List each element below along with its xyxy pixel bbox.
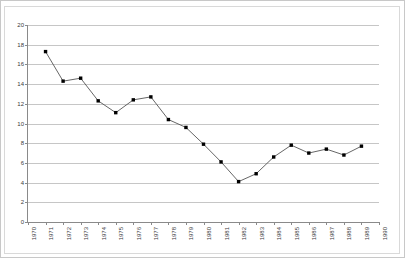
data-point-marker: 1981: 6.1 (219, 160, 222, 163)
x-tick-label: 1984 (276, 227, 282, 240)
x-tick-mark (81, 222, 82, 225)
y-tick-label: 6 (21, 160, 24, 166)
x-tick-mark (116, 222, 117, 225)
x-tick-mark (98, 222, 99, 225)
y-tick-label: 8 (21, 140, 24, 146)
x-tick-label: 1987 (329, 227, 335, 240)
y-tick-label: 20 (17, 22, 24, 28)
x-tick-mark (344, 222, 345, 225)
y-tick-label: 0 (21, 219, 24, 225)
x-tick-mark (168, 222, 169, 225)
x-tick-label: 1973 (83, 227, 89, 240)
data-point-marker: 1982: 4.1 (237, 180, 240, 183)
data-point-marker: 1987: 7.4 (325, 147, 328, 150)
x-tick-label: 1979 (188, 227, 194, 240)
data-point-marker: 1974: 12.3 (97, 99, 100, 102)
y-tick-label: 12 (17, 101, 24, 107)
data-point-marker: 1988: 6.8 (342, 153, 345, 156)
data-point-marker: 1980: 7.9 (202, 142, 205, 145)
x-tick-mark (221, 222, 222, 225)
data-point-marker: 1986: 7 (307, 151, 310, 154)
series-line (46, 52, 362, 182)
data-point-marker: 1985: 7.8 (290, 143, 293, 146)
data-point-marker: 1984: 6.6 (272, 155, 275, 158)
x-tick-mark (151, 222, 152, 225)
x-tick-label: 1974 (101, 227, 107, 240)
data-series-layer: 1971: 17.31972: 14.31973: 14.61974: 12.3… (28, 25, 379, 222)
x-tick-label: 1983 (259, 227, 265, 240)
data-point-marker: 1975: 11.1 (114, 111, 117, 114)
x-tick-label: 1971 (48, 227, 54, 240)
x-tick-mark (204, 222, 205, 225)
x-tick-label: 1976 (136, 227, 142, 240)
plot-area: 02468101214161820 1970197119721973197419… (27, 25, 379, 223)
x-tick-label: 1975 (118, 227, 124, 240)
data-point-marker: 1989: 7.7 (360, 144, 363, 147)
x-tick-mark (46, 222, 47, 225)
x-tick-mark (379, 222, 380, 225)
x-tick-mark (361, 222, 362, 225)
x-tick-mark (309, 222, 310, 225)
y-tick-label: 18 (17, 42, 24, 48)
x-tick-label: 1988 (346, 227, 352, 240)
x-tick-label: 1978 (171, 227, 177, 240)
x-tick-label: 1989 (364, 227, 370, 240)
x-tick-label: 1972 (66, 227, 72, 240)
x-tick-label: 1980 (206, 227, 212, 240)
x-tick-mark (274, 222, 275, 225)
data-point-marker: 1976: 12.4 (132, 98, 135, 101)
x-tick-label: 1981 (224, 227, 230, 240)
x-tick-mark (291, 222, 292, 225)
x-tick-mark (63, 222, 64, 225)
data-point-marker: 1971: 17.3 (44, 50, 47, 53)
data-point-marker: 1972: 14.3 (61, 79, 64, 82)
data-point-marker: 1978: 10.4 (167, 118, 170, 121)
x-tick-mark (28, 222, 29, 225)
x-tick-mark (186, 222, 187, 225)
x-tick-label: 1982 (241, 227, 247, 240)
y-tick-label: 16 (17, 61, 24, 67)
x-tick-mark (239, 222, 240, 225)
data-point-marker: 1983: 4.9 (254, 172, 257, 175)
x-tick-label: 1986 (311, 227, 317, 240)
y-tick-label: 14 (17, 81, 24, 87)
x-tick-label: 1977 (153, 227, 159, 240)
data-point-marker: 1979: 9.6 (184, 126, 187, 129)
y-tick-label: 2 (21, 199, 24, 205)
x-tick-mark (256, 222, 257, 225)
x-tick-mark (326, 222, 327, 225)
x-tick-mark (133, 222, 134, 225)
y-tick-label: 4 (21, 180, 24, 186)
x-tick-label: 1985 (294, 227, 300, 240)
y-tick-label: 10 (17, 121, 24, 127)
x-tick-label: 1970 (31, 227, 37, 240)
line-chart: 02468101214161820 1970197119721973197419… (0, 0, 405, 258)
x-tick-label: 1990 (382, 227, 388, 240)
data-point-marker: 1977: 12.7 (149, 95, 152, 98)
data-point-marker: 1973: 14.6 (79, 76, 82, 79)
